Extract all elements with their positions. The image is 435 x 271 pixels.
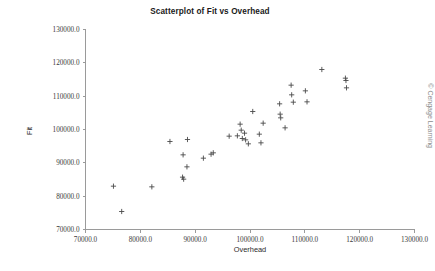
data-point-marker: [242, 131, 247, 136]
axis-frame: [86, 30, 415, 230]
data-point-marker: [319, 67, 324, 72]
data-point-marker: [289, 92, 294, 97]
data-point-marker: [243, 137, 248, 142]
data-point-marker: [111, 184, 116, 189]
data-point-marker: [119, 209, 124, 214]
data-point-marker: [278, 115, 283, 120]
data-point-marker: [181, 152, 186, 157]
data-point-marker: [277, 101, 282, 106]
x-tick-label: 80000.0: [129, 236, 153, 244]
data-point-marker: [238, 122, 243, 127]
x-tick-label: 100000.0: [237, 236, 264, 244]
y-tick-label: 130000.0: [53, 26, 80, 34]
data-point-marker: [303, 88, 308, 93]
scatterplot-figure: Scatterplot of Fit vs Overhead 70000.080…: [0, 0, 435, 271]
data-point-marker: [149, 184, 154, 189]
y-tick-label: 100000.0: [53, 126, 80, 134]
data-point-marker: [201, 156, 206, 161]
x-tick-label: 90000.0: [183, 236, 207, 244]
data-point-marker: [304, 99, 309, 104]
data-point-marker: [291, 100, 296, 105]
data-point-marker: [250, 109, 255, 114]
data-point-marker: [261, 121, 266, 126]
y-axis-ticks: 70000.080000.090000.0100000.0110000.0120…: [53, 26, 86, 234]
data-point-marker: [185, 137, 190, 142]
data-points: [111, 67, 349, 214]
data-point-marker: [258, 140, 263, 145]
data-point-marker: [282, 125, 287, 130]
plot-area: 70000.080000.090000.0100000.0110000.0120…: [0, 0, 435, 271]
y-tick-label: 70000.0: [56, 226, 80, 234]
data-point-marker: [184, 164, 189, 169]
data-point-marker: [343, 76, 348, 81]
x-tick-label: 130000.0: [401, 236, 428, 244]
data-point-marker: [289, 83, 294, 88]
data-point-marker: [344, 85, 349, 90]
data-point-marker: [278, 112, 283, 117]
data-point-marker: [227, 134, 232, 139]
x-tick-label: 70000.0: [74, 236, 98, 244]
data-point-marker: [246, 141, 251, 146]
x-tick-label: 120000.0: [346, 236, 373, 244]
data-point-marker: [167, 139, 172, 144]
axis-lines: [86, 30, 415, 230]
data-point-marker: [257, 132, 262, 137]
y-axis-title: Fit: [25, 127, 34, 135]
x-axis-title: Overhead: [234, 245, 266, 254]
data-point-marker: [235, 133, 240, 138]
data-point-marker: [343, 78, 348, 83]
y-tick-label: 80000.0: [56, 193, 80, 201]
y-tick-label: 120000.0: [53, 59, 80, 67]
x-tick-label: 110000.0: [291, 236, 318, 244]
y-tick-label: 90000.0: [56, 159, 80, 167]
data-point-marker: [240, 136, 245, 141]
y-tick-label: 110000.0: [53, 93, 80, 101]
data-point-marker: [239, 128, 244, 133]
x-axis-ticks: 70000.080000.090000.0100000.0110000.0120…: [74, 230, 429, 244]
copyright-notice: © Cengage Learning: [427, 83, 434, 148]
